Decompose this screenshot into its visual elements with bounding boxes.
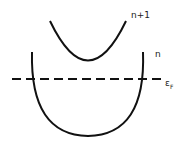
band-n-plus-1-curve: [50, 21, 126, 61]
band-n-plus-1-label: n+1: [131, 11, 150, 20]
fermi-level-label: εF: [165, 79, 173, 90]
fermi-subscript: F: [170, 83, 173, 90]
band-n-label: n: [155, 50, 161, 59]
band-diagram: [0, 0, 184, 143]
band-n-curve: [32, 52, 143, 136]
